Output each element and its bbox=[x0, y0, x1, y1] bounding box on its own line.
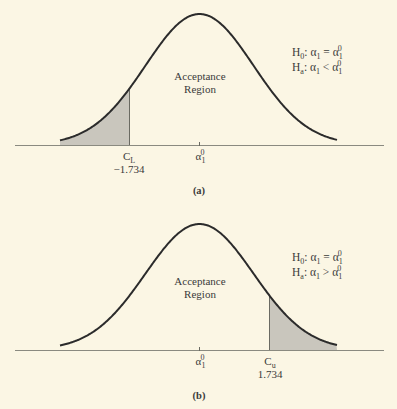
panel-caption: (b) bbox=[184, 389, 214, 402]
center-tick-label: α10 bbox=[185, 355, 215, 368]
null-hypothesis: H0: α1 = α10 bbox=[292, 250, 342, 264]
region-label-line2: Region bbox=[168, 288, 232, 301]
critical-value: −1.734 bbox=[109, 163, 149, 176]
chart-panel-a: Acceptance Region H0: α1 = α10 Ha: α1 < … bbox=[0, 0, 397, 205]
panel-caption: (a) bbox=[184, 184, 214, 197]
critical-value-label: CL −1.734 bbox=[109, 150, 149, 176]
acceptance-region-label: Acceptance Region bbox=[168, 275, 232, 301]
region-label-line1: Acceptance bbox=[168, 275, 232, 288]
acceptance-region-label: Acceptance Region bbox=[168, 70, 232, 96]
critical-value: 1.734 bbox=[250, 368, 290, 381]
null-hypothesis: H0: α1 = α10 bbox=[292, 45, 342, 59]
alternative-hypothesis: Ha: α1 < α10 bbox=[292, 60, 341, 74]
region-label-line2: Region bbox=[168, 83, 232, 96]
normal-curve-plot-a bbox=[0, 0, 397, 205]
region-label-line1: Acceptance bbox=[168, 70, 232, 83]
critical-value-label: Cu 1.734 bbox=[250, 355, 290, 381]
chart-panel-b: Acceptance Region H0: α1 = α10 Ha: α1 > … bbox=[0, 205, 397, 409]
alternative-hypothesis: Ha: α1 > α10 bbox=[292, 265, 341, 279]
center-tick-label: α10 bbox=[185, 150, 215, 163]
normal-curve-plot-b bbox=[0, 205, 397, 409]
